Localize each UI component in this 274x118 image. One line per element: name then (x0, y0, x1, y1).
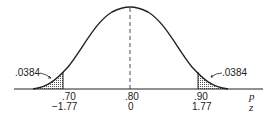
z-tick-neg177: −1.77 (52, 102, 77, 112)
z-tick-177: 1.77 (192, 102, 211, 112)
z-tick-0: 0 (128, 102, 134, 112)
left-area-label: .0384 (15, 68, 40, 78)
right-area-label: .0384 (222, 68, 247, 78)
p-axis-label: p (249, 91, 255, 101)
right-area-arrow (211, 73, 222, 77)
left-area-arrow (40, 73, 51, 78)
z-axis-label: z (249, 102, 253, 112)
